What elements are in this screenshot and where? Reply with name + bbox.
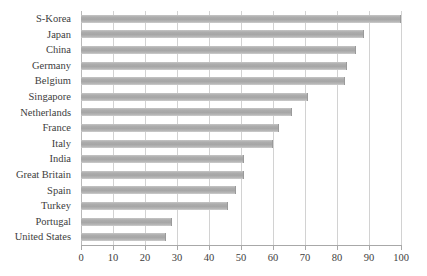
bar-row [81, 42, 401, 58]
bar [81, 93, 308, 101]
bar [81, 124, 279, 132]
x-axis-tick [305, 246, 306, 250]
x-axis-tick-label: 70 [300, 251, 311, 265]
x-axis-tick [113, 246, 114, 250]
bar-row [81, 73, 401, 89]
bar [81, 46, 356, 54]
x-axis-tick-label: 30 [172, 251, 183, 265]
bar [81, 155, 244, 163]
y-axis-label: China [0, 42, 76, 58]
gridline [401, 11, 402, 245]
y-axis-label: Portugal [0, 214, 76, 230]
x-axis-ticks [81, 246, 401, 250]
x-axis-tick [369, 246, 370, 250]
bar [81, 218, 172, 226]
x-axis-tick [273, 246, 274, 250]
x-axis-tick [145, 246, 146, 250]
x-axis-tick-label: 40 [204, 251, 215, 265]
x-axis-tick-label: 10 [108, 251, 119, 265]
bar [81, 202, 228, 210]
bar [81, 140, 273, 148]
bar-row [81, 229, 401, 245]
bar-row [81, 89, 401, 105]
bar [81, 171, 244, 179]
bar-chart: S-KoreaJapanChinaGermanyBelgiumSingapore… [0, 0, 427, 276]
x-axis-tick-label: 80 [332, 251, 343, 265]
y-axis-label: United States [0, 229, 76, 245]
y-axis-label: Italy [0, 136, 76, 152]
bar-row [81, 214, 401, 230]
bar-row [81, 105, 401, 121]
y-axis-label: Netherlands [0, 105, 76, 121]
y-axis-label: Turkey [0, 198, 76, 214]
bar-row [81, 120, 401, 136]
bar [81, 233, 166, 241]
bar [81, 30, 364, 38]
bar-row [81, 11, 401, 27]
bar [81, 77, 345, 85]
plot-area [81, 11, 401, 245]
y-axis-category-labels: S-KoreaJapanChinaGermanyBelgiumSingapore… [0, 11, 76, 245]
x-axis-tick [81, 246, 82, 250]
x-axis-tick [337, 246, 338, 250]
x-axis-tick [209, 246, 210, 250]
x-axis-tick-label: 20 [140, 251, 151, 265]
x-axis-tick [241, 246, 242, 250]
y-axis-label: S-Korea [0, 11, 76, 27]
y-axis-label: India [0, 151, 76, 167]
y-axis-label: Germany [0, 58, 76, 74]
x-axis-tick-label: 0 [78, 251, 83, 265]
x-axis-tick [177, 246, 178, 250]
y-axis-label: Singapore [0, 89, 76, 105]
y-axis-label: France [0, 120, 76, 136]
y-axis-label: Belgium [0, 73, 76, 89]
x-axis-tick-label: 60 [268, 251, 279, 265]
bar [81, 186, 236, 194]
bar-row [81, 198, 401, 214]
bar [81, 62, 347, 70]
y-axis-label: Spain [0, 183, 76, 199]
x-axis-tick-label: 100 [393, 251, 409, 265]
x-axis-tick-labels: 0102030405060708090100 [81, 251, 401, 267]
bar [81, 108, 292, 116]
x-axis-tick-label: 50 [236, 251, 247, 265]
x-axis-tick [401, 246, 402, 250]
bar-row [81, 183, 401, 199]
y-axis-label: Great Britain [0, 167, 76, 183]
x-axis-tick-label: 90 [364, 251, 375, 265]
bar-row [81, 151, 401, 167]
bar-row [81, 58, 401, 74]
bar-row [81, 167, 401, 183]
bar [81, 15, 401, 23]
y-axis-label: Japan [0, 27, 76, 43]
bar-row [81, 136, 401, 152]
bar-row [81, 27, 401, 43]
bar-series [81, 11, 401, 245]
